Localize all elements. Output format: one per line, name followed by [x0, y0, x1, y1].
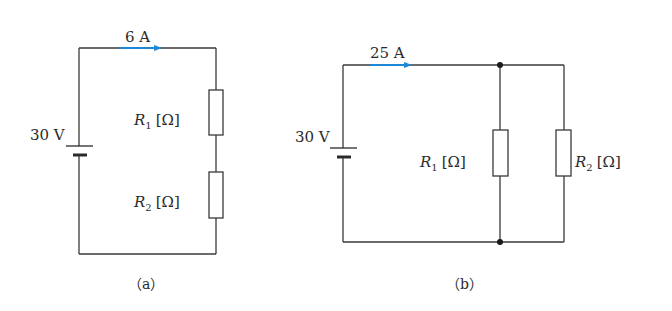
junction-top-icon — [497, 62, 503, 68]
circuit-a-series: 30 V 6 A R1[Ω] R2[Ω] （a） — [30, 28, 223, 292]
circuit-b-voltage-label: 30 V — [295, 128, 331, 146]
circuit-diagrams: 30 V 6 A R1[Ω] R2[Ω] （a） — [0, 0, 672, 311]
circuit-a-wires — [79, 48, 216, 254]
circuit-a-caption: （a） — [128, 276, 164, 292]
circuit-a-voltage-label: 30 V — [30, 126, 66, 144]
circuit-b-current-label: 25 A — [370, 44, 405, 62]
circuit-b-caption: （b） — [446, 276, 483, 292]
circuit-b-r1-label: R1[Ω] — [419, 153, 466, 173]
resistor-r1-icon — [209, 90, 223, 135]
circuit-b-parallel: 30 V 25 A R1[Ω] R2[Ω] （b） — [295, 44, 621, 292]
battery-icon — [66, 146, 93, 155]
junction-bottom-icon — [497, 239, 503, 245]
circuit-a-current-label: 6 A — [125, 28, 150, 46]
circuit-b-r2-label: R2[Ω] — [574, 153, 621, 173]
resistor-r1-icon — [493, 130, 508, 176]
circuit-a-r1-label: R1[Ω] — [133, 111, 180, 131]
battery-icon — [330, 148, 357, 157]
resistor-r2-icon — [556, 130, 571, 176]
circuit-a-r2-label: R2[Ω] — [133, 193, 180, 213]
resistor-r2-icon — [209, 172, 223, 218]
